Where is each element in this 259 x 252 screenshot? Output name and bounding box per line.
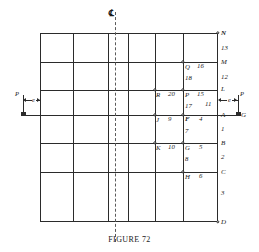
node-N xyxy=(216,31,219,34)
label-6: 6 xyxy=(199,173,202,180)
label-1: 1 xyxy=(221,126,224,133)
label-H: H xyxy=(185,174,190,181)
label-N: N xyxy=(221,30,226,37)
figure-caption: FIGURE 72 xyxy=(0,235,259,244)
right-dim-line-a xyxy=(220,100,227,101)
centerline-axis xyxy=(115,12,116,242)
right-dim-arrow-b xyxy=(234,98,237,102)
label-17: 17 xyxy=(185,103,192,110)
label-C: C xyxy=(221,169,226,176)
label-D: D xyxy=(221,219,226,226)
left-dim-arrow-b xyxy=(37,98,40,102)
label-G-node: G xyxy=(185,145,190,152)
left-dim-arrow-a xyxy=(23,98,26,102)
label-15: 15 xyxy=(197,91,204,98)
grid-hline-1 xyxy=(41,62,217,63)
label-3: 3 xyxy=(221,190,224,197)
label-7: 7 xyxy=(185,128,188,135)
label-8: 8 xyxy=(185,156,188,163)
node-D xyxy=(216,220,219,223)
label-10: 10 xyxy=(168,144,175,151)
label-Q: Q xyxy=(185,64,190,71)
label-L: L xyxy=(221,86,225,93)
label-13: 13 xyxy=(221,45,228,52)
label-16: 16 xyxy=(197,63,204,70)
label-M: M xyxy=(221,59,227,66)
right-load-stem xyxy=(238,95,239,113)
centerline-symbol-icon: ℄ xyxy=(108,8,113,18)
label-2: 2 xyxy=(221,154,224,161)
label-20: 20 xyxy=(168,91,175,98)
grid-hline-4 xyxy=(41,143,217,144)
label-11: 11 xyxy=(205,101,211,108)
label-F: F xyxy=(185,116,190,123)
left-load-baseline xyxy=(23,115,40,116)
label-B: B xyxy=(221,140,225,147)
label-12: 12 xyxy=(221,74,228,81)
label-P-left: P xyxy=(15,91,19,98)
label-P-right: P xyxy=(240,91,244,98)
label-R: R xyxy=(156,92,160,99)
label-e-left: e xyxy=(32,97,35,104)
right-load-baseline xyxy=(218,115,238,116)
grid-hline-2 xyxy=(41,90,217,91)
label-G-right: G xyxy=(241,112,246,119)
right-dim-arrow-a xyxy=(218,98,221,102)
label-4: 4 xyxy=(199,116,202,123)
label-K: K xyxy=(156,145,161,152)
grid-frame xyxy=(40,33,218,222)
label-e-right: e xyxy=(228,97,231,104)
left-dim-line-a xyxy=(25,100,32,101)
label-9: 9 xyxy=(168,116,171,123)
label-J: J xyxy=(156,117,159,124)
label-P-node: P xyxy=(185,92,189,99)
label-5: 5 xyxy=(199,144,202,151)
label-18: 18 xyxy=(185,75,192,82)
figure-72-diagram: ℄ N 13 M 12 L 11 A 1 B 2 C 3 D Q 16 18 R… xyxy=(0,0,259,252)
grid-hline-5 xyxy=(41,172,217,173)
grid-hline-3 xyxy=(41,115,217,116)
